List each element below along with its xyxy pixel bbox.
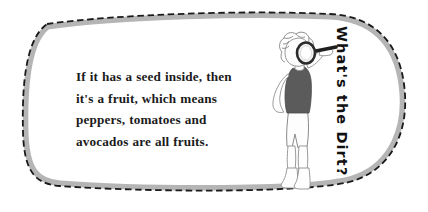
shorts-icon <box>287 108 309 148</box>
callout-card: If it has a seed inside, then it's a fru… <box>0 0 428 212</box>
legs-icon <box>287 146 308 171</box>
kid-with-magnifying-glass-illustration <box>262 30 354 192</box>
tank-top-icon <box>285 66 311 113</box>
callout-body-text: If it has a seed inside, then it's a fru… <box>76 66 266 152</box>
shoes-icon <box>281 168 310 189</box>
